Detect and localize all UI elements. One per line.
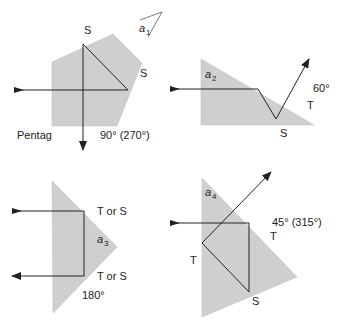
label-s: S [280,127,287,139]
panel-porro-prism: T or S a3 T or S 180° [12,181,127,313]
angle-label: 90° (270°) [100,129,150,141]
arrow-in-icon [14,87,24,93]
panel-right-angle-prism: a2 60° T S [170,59,330,139]
angle-label: 60° [313,82,330,94]
label-s-top: S [84,24,91,36]
svg-text:a: a [205,68,211,80]
label-s-right: S [140,67,147,79]
svg-text:1: 1 [146,28,151,37]
caption-pentag: Pentag [17,129,52,141]
panel-pentagonal-prism: S S Pentag 90° (270°) a 1 [14,12,162,150]
svg-text:a: a [97,233,103,245]
svg-text:2: 2 [212,74,217,83]
svg-text:a: a [139,22,145,34]
label-bottom: T or S [97,270,127,282]
svg-text:3: 3 [104,239,109,248]
label-t: T [307,99,314,111]
label-t-left: T [190,254,197,266]
angle-label: 45° (315°) [272,216,322,228]
label-t-right: T [270,230,277,242]
svg-text:a: a [205,186,211,198]
prism-diagram: S S Pentag 90° (270°) a 1 a2 60° T S T o… [0,0,339,321]
label-s-bottom: S [252,295,259,307]
pentagon-prism-shape [52,34,142,126]
svg-text:4: 4 [212,192,217,201]
angle-marker-icon: a 1 [139,12,162,37]
angle-label: 180° [82,289,105,301]
triangle-prism-shape [201,59,314,125]
panel-45-prism: a4 45° (315°) T T S [170,172,322,317]
label-top: T or S [97,205,127,217]
